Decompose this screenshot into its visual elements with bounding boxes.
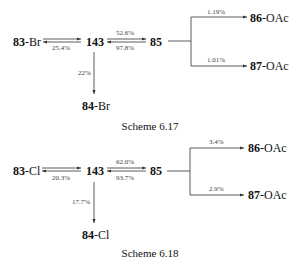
- compound-83-cl: 83-Cl: [13, 165, 40, 177]
- pct-forward: 62.0%: [116, 159, 134, 166]
- pct-side: 22%: [78, 70, 91, 77]
- pct-83-reverse: 20.3%: [52, 175, 70, 182]
- scheme-caption-6-17: Scheme 6.17: [0, 121, 300, 132]
- compound-85: 85: [150, 36, 162, 48]
- compound-84-br: 84-Br: [82, 100, 110, 112]
- compound-86-oac: 86-OAc: [248, 142, 287, 154]
- compound-87-oac: 87-OAc: [250, 60, 289, 72]
- pct-branch-bottom: 2.9%: [209, 186, 224, 193]
- compound-84-cl: 84-Cl: [82, 229, 109, 241]
- pct-83-reverse: 25.4%: [52, 45, 70, 52]
- compound-86-oac: 86-OAc: [250, 12, 289, 24]
- pct-reverse: 97.8%: [116, 45, 134, 52]
- scheme-caption-6-18: Scheme 6.18: [0, 248, 300, 259]
- compound-87-oac: 87-OAc: [248, 189, 287, 201]
- compound-83-br: 83-Br: [13, 36, 41, 48]
- pct-forward: 52.6%: [116, 30, 134, 37]
- pct-branch-bottom: 1.01%: [207, 57, 225, 64]
- pct-branch-top: 3.4%: [209, 139, 224, 146]
- pct-reverse: 93.7%: [116, 175, 134, 182]
- compound-85: 85: [150, 165, 162, 177]
- compound-143: 143: [86, 165, 104, 177]
- pct-branch-top: 1.19%: [207, 9, 225, 16]
- pct-side: 17.7%: [72, 199, 90, 206]
- compound-143: 143: [86, 36, 104, 48]
